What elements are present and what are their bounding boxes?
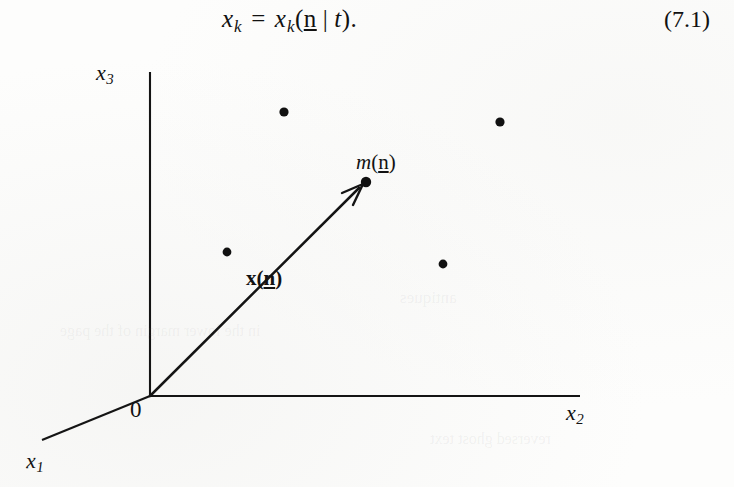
equation-rhs-function: x — [275, 5, 287, 32]
figure-drawing — [0, 46, 734, 487]
axis-label-x1-variable: x — [25, 448, 36, 473]
vector-label-open-paren: ( — [257, 266, 264, 290]
axis-label-x3-variable: x — [96, 60, 106, 85]
equation-expression: xk=xk(n|t). — [222, 5, 357, 37]
point-label-close-paren: ) — [389, 150, 396, 174]
axis-label-x1-subscript: 1 — [36, 459, 44, 475]
equation-argument-n: n — [304, 5, 317, 32]
scanned-page: xk=xk(n|t). (7.1) x3 — [0, 0, 734, 487]
conditional-bar: | — [323, 5, 329, 32]
axis-label-x2-subscript: 2 — [576, 411, 583, 427]
point-label-symbol: m — [356, 150, 371, 174]
equation-time-variable: t — [334, 5, 341, 32]
equation-rhs-subscript: k — [287, 17, 295, 36]
displayed-equation-row: xk=xk(n|t). (7.1) — [0, 0, 734, 46]
equation-lhs-subscript: k — [234, 17, 242, 36]
vector-label-symbol: x — [246, 266, 257, 290]
equation-period: . — [351, 5, 358, 32]
axis-label-x1: x1 — [26, 450, 45, 476]
vector-label-x-of-n: x(n) — [246, 268, 282, 289]
axis-label-x2: x2 — [566, 402, 584, 427]
axis-label-x3: x3 — [96, 62, 114, 87]
position-vector-shaft — [150, 188, 359, 396]
origin-label: 0 — [130, 398, 142, 421]
vector-head-dot — [361, 177, 371, 187]
particle-dot-3 — [223, 248, 232, 257]
particle-dot-2 — [495, 117, 504, 126]
bleed-through-text-2: in the lower margin of the page — [60, 322, 261, 340]
equation-lhs-variable: x — [222, 5, 234, 32]
bleed-through-text-3: reversed ghost text — [430, 430, 551, 448]
bleed-through-text-1: antiques — [400, 288, 457, 308]
particle-dot-1 — [279, 107, 288, 116]
axis-label-x3-subscript: 3 — [106, 71, 113, 87]
vector-label-close-paren: ) — [275, 266, 282, 290]
equals-sign: = — [251, 5, 266, 32]
equation-number: (7.1) — [664, 6, 710, 33]
point-label-argument-n: n — [378, 150, 389, 174]
vector-label-argument-n: n — [264, 266, 276, 290]
open-paren: ( — [295, 5, 304, 32]
axis-label-x2-variable: x — [566, 400, 576, 425]
particle-dot-4 — [439, 260, 448, 269]
coordinate-frame-figure: x3 x2 x1 0 m(n) x(n) — [0, 46, 734, 487]
point-label-m-of-n: m(n) — [356, 152, 396, 173]
close-paren: ) — [342, 5, 351, 32]
